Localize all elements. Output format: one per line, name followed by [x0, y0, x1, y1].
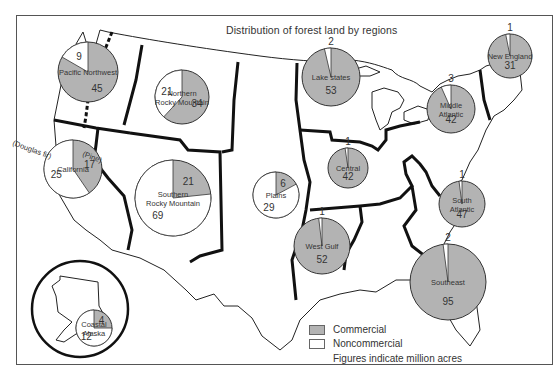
alaska-inset-circle — [32, 261, 128, 357]
pie-pacific-northwest: Pacific Northwest459 — [58, 42, 118, 102]
noncommercial-value: 2 — [445, 232, 451, 243]
commercial-value: 53 — [325, 85, 337, 96]
region-label: South — [452, 196, 472, 205]
chart-title: Distribution of forest land by regions — [226, 24, 397, 36]
region-label: Plains — [266, 191, 287, 200]
pie-lake-states: Lake states532 — [302, 36, 360, 106]
pie-northern-rocky-mountain: NorthernRocky Mountain3421 — [155, 70, 209, 124]
noncommercial-value: 1 — [507, 22, 513, 33]
legend-swatch-noncommercial — [309, 339, 325, 349]
pie-charts: Pacific Northwest459NorthernRocky Mounta… — [44, 22, 532, 346]
pie-southern-rocky-mountain: SouthernRocky Mountain2169 — [135, 160, 211, 236]
pie-west-gulf: West Gulf521 — [294, 206, 350, 274]
commercial-value: 52 — [316, 254, 328, 265]
noncommercial-value: 2 — [328, 36, 334, 47]
noncommercial-value: 3 — [448, 73, 454, 84]
region-label: Southern — [158, 190, 188, 199]
noncommercial-value: 1 — [319, 206, 325, 217]
noncommercial-value: 25 — [51, 169, 63, 180]
noncommercial-value: 1 — [345, 136, 351, 147]
commercial-value: 6 — [280, 178, 286, 189]
pie-southeast: Southeast952 — [410, 232, 486, 320]
noncommercial-value: 12 — [81, 331, 93, 342]
region-label: Pacific Northwest — [59, 68, 118, 77]
commercial-value: 95 — [442, 296, 454, 307]
commercial-value: 42 — [445, 114, 457, 125]
commercial-value: 42 — [342, 171, 354, 182]
commercial-value: 47 — [456, 209, 468, 220]
noncommercial-value: 29 — [263, 202, 275, 213]
noncommercial-value: 9 — [76, 51, 82, 62]
pie-south-atlantic: SouthAtlantic471 — [439, 169, 485, 227]
pie-plains: Plains629 — [253, 172, 299, 218]
region-label: Rocky Mountain — [146, 199, 200, 208]
legend-commercial-label: Commercial — [333, 324, 386, 335]
commercial-value: 21 — [183, 176, 195, 187]
commercial-value: 45 — [91, 83, 103, 94]
legend-note: Figures indicate million acres — [333, 353, 462, 364]
noncommercial-value: 69 — [152, 210, 164, 221]
commercial-value: 4 — [99, 315, 105, 326]
region-label: Middle — [440, 101, 462, 110]
pie-coastal-alaska: CoastalAlaska412 — [76, 310, 112, 346]
region-label: Lake states — [312, 73, 351, 82]
legend-noncommercial-label: Noncommercial — [333, 338, 402, 349]
region-label: Southeast — [431, 278, 466, 287]
pie-middle-atlantic: MiddleAtlantic423 — [427, 73, 475, 133]
pie-new-england: New England311 — [488, 22, 533, 78]
pie-california: California1725 — [44, 140, 102, 198]
douglas-fir-label: (Douglas fir) — [11, 138, 53, 161]
us-forest-map: Pacific Northwest459NorthernRocky Mounta… — [0, 0, 558, 385]
region-label: West Gulf — [306, 242, 340, 251]
legend-swatch-commercial — [309, 325, 325, 335]
noncommercial-value: 1 — [459, 169, 465, 180]
commercial-value: 34 — [192, 98, 204, 109]
commercial-value: 31 — [504, 60, 516, 71]
noncommercial-value: 21 — [161, 86, 173, 97]
